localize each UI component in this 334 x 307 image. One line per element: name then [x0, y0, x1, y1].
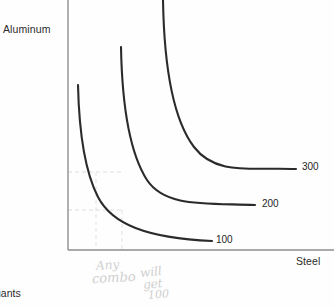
guide-lines-group — [68, 172, 122, 250]
curve-label-100: 100 — [216, 234, 233, 245]
cropped-caption-text: uants — [0, 287, 21, 299]
curve-label-200: 200 — [262, 198, 279, 209]
chart-canvas — [0, 0, 334, 307]
axes-group — [68, 0, 334, 250]
curve-label-300: 300 — [302, 161, 319, 172]
x-axis-label: Steel — [296, 255, 320, 267]
isoquant-curve-300 — [163, 0, 296, 169]
isoquant-curve-100 — [78, 85, 212, 241]
isoquant-figure: Aluminum Steel 100 200 300 uants Any com… — [0, 0, 334, 307]
y-axis-label: Aluminum — [3, 23, 50, 35]
isoquant-curve-200 — [121, 47, 255, 205]
